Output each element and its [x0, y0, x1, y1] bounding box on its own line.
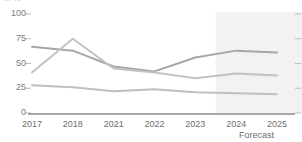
forecast-shaded-region — [216, 12, 302, 113]
x-axis-tick-label-2024: 2024 — [216, 119, 256, 129]
x-axis-tick-label-2017: 2017 — [12, 119, 52, 129]
x-axis-tick-label-2018: 2018 — [53, 119, 93, 129]
y-axis-tick-label: 25 — [0, 83, 26, 92]
y-axis-tick-label: 0 — [0, 108, 26, 117]
x-axis-tick-label-2025: 2025 — [257, 119, 297, 129]
y-axis-tick-label: 100 — [0, 9, 26, 18]
x-axis-tick-label-2021: 2021 — [94, 119, 134, 129]
line-chart: in % 1007550250 201720182021202220232024… — [0, 0, 302, 142]
forecast-band — [216, 12, 302, 113]
x-axis-tick-label-2023: 2023 — [175, 119, 215, 129]
x-axis-tick-label-2022: 2022 — [135, 119, 175, 129]
y-axis-tick-label: 50 — [0, 59, 26, 68]
forecast-caption: Forecast — [227, 130, 287, 140]
y-axis-tick-label: 75 — [0, 34, 26, 43]
